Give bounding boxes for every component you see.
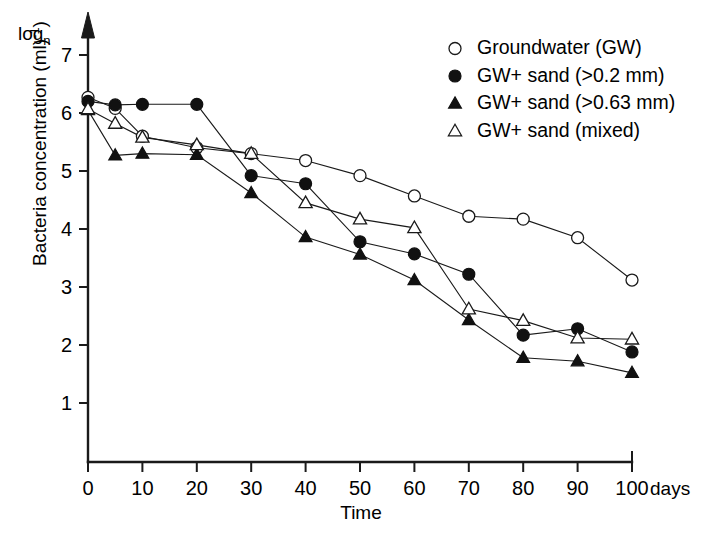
x-axis-unit-label: days: [650, 478, 690, 499]
legend-label-gw-sand-mixed: GW+ sand (mixed): [477, 119, 640, 141]
data-point-groundwater-gw-90: [572, 232, 584, 244]
y-tick-label-7: 7: [61, 44, 72, 66]
x-tick-label-40: 40: [294, 477, 316, 499]
data-point-gw-sand-0-63-mm-40: [299, 231, 312, 242]
x-tick-label-70: 70: [458, 477, 480, 499]
data-point-gw-sand-0-2-mm-60: [408, 248, 420, 260]
y-axis-title-close-paren: ): [29, 21, 50, 27]
data-point-gw-sand-0-63-mm-90: [571, 355, 584, 366]
data-point-gw-sand-0-63-mm-5: [109, 149, 122, 160]
data-point-gw-sand-0-2-mm-20: [191, 98, 203, 110]
data-point-gw-sand-0-2-mm-100: [626, 346, 638, 358]
data-point-gw-sand-0-2-mm-10: [136, 98, 148, 110]
legend-item-gw-sand-0-2-mm[interactable]: GW+ sand (>0.2 mm): [449, 64, 664, 86]
data-point-gw-sand-0-63-mm-10: [136, 147, 149, 158]
data-point-gw-sand-0-2-mm-50: [354, 236, 366, 248]
x-tick-label-30: 30: [240, 477, 262, 499]
y-tick-label-6: 6: [61, 102, 72, 124]
cut-off-caption: [0, 516, 725, 538]
x-tick-label-60: 60: [403, 477, 425, 499]
data-point-groundwater-gw-100: [626, 274, 638, 286]
legend-item-gw-sand-mixed[interactable]: GW+ sand (mixed): [448, 119, 640, 141]
data-point-groundwater-gw-80: [517, 213, 529, 225]
legend-marker-filled-triangle-icon: [449, 97, 462, 108]
legend-marker-open-circle-icon: [449, 43, 461, 55]
y-tick-label-3: 3: [61, 276, 72, 298]
legend-item-groundwater-gw[interactable]: Groundwater (GW): [449, 36, 642, 58]
data-point-gw-sand-0-2-mm-5: [109, 99, 121, 111]
data-point-gw-sand-0-63-mm-60: [408, 273, 421, 284]
data-point-gw-sand-0-63-mm-70: [462, 313, 475, 324]
legend-label-groundwater-gw: Groundwater (GW): [477, 36, 642, 58]
x-tick-label-20: 20: [186, 477, 208, 499]
data-point-gw-sand-0-2-mm-30: [245, 170, 257, 182]
y-tick-label-2: 2: [61, 334, 72, 356]
data-point-gw-sand-0-2-mm-80: [517, 329, 529, 341]
x-tick-label-0: 0: [82, 477, 93, 499]
bacteria-decay-line-chart: 12345670102030405060708090100daysTimelog…: [0, 0, 725, 538]
data-point-groundwater-gw-50: [354, 170, 366, 182]
data-point-groundwater-gw-60: [408, 190, 420, 202]
y-tick-label-1: 1: [61, 392, 72, 414]
x-tick-label-50: 50: [349, 477, 371, 499]
data-point-gw-sand-mixed-100: [625, 332, 638, 344]
data-point-groundwater-gw-40: [300, 155, 312, 167]
y-tick-label-5: 5: [61, 160, 72, 182]
data-point-gw-sand-0-2-mm-70: [463, 268, 475, 280]
x-tick-label-100: 100: [615, 477, 648, 499]
x-tick-label-80: 80: [512, 477, 534, 499]
data-point-gw-sand-0-63-mm-30: [245, 186, 258, 197]
y-tick-label-4: 4: [61, 218, 72, 240]
legend-label-gw-sand-0-2-mm: GW+ sand (>0.2 mm): [477, 64, 664, 86]
legend-marker-filled-circle-icon: [449, 70, 461, 82]
legend-item-gw-sand-0-63-mm[interactable]: GW+ sand (>0.63 mm): [449, 91, 676, 113]
y-axis-title-superscript: -1: [27, 27, 42, 39]
data-point-gw-sand-0-63-mm-80: [517, 351, 530, 362]
x-tick-label-90: 90: [566, 477, 588, 499]
data-point-gw-sand-0-2-mm-40: [300, 178, 312, 190]
figure-page: 12345670102030405060708090100daysTimelog…: [0, 0, 725, 538]
legend: Groundwater (GW)GW+ sand (>0.2 mm)GW+ sa…: [448, 36, 675, 141]
y-axis-title: Bacteria concentration (ml)-1): [27, 21, 50, 266]
data-point-gw-sand-mixed-70: [462, 302, 475, 314]
y-axis-arrow-icon: [82, 12, 95, 38]
data-point-groundwater-gw-70: [463, 210, 475, 222]
legend-label-gw-sand-0-63-mm: GW+ sand (>0.63 mm): [477, 91, 675, 113]
legend-marker-open-triangle-icon: [448, 124, 461, 136]
x-tick-label-10: 10: [131, 477, 153, 499]
data-point-gw-sand-mixed-5: [109, 117, 122, 129]
data-point-gw-sand-mixed-40: [299, 196, 312, 208]
